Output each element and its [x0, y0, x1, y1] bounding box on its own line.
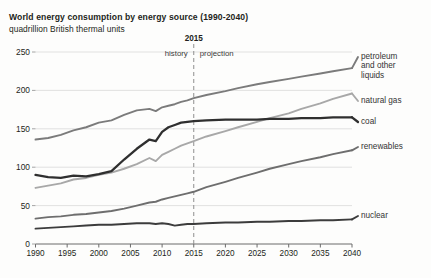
x-axis-tick-label: 2010	[153, 249, 171, 258]
y-axis-tick-label: 50	[4, 201, 30, 211]
series-line-coal	[36, 117, 353, 178]
x-axis-tick-label: 2005	[121, 249, 139, 258]
series-label-petroleum-and-other-liquids: petroleumand otherliquids	[361, 52, 397, 80]
x-axis-tick-label: 2020	[216, 249, 234, 258]
y-axis-tick-label: 150	[4, 124, 30, 134]
projection-label: projection	[200, 49, 234, 58]
plot-canvas	[0, 0, 431, 278]
x-axis-tick-label: 2030	[280, 249, 298, 258]
x-axis-tick-label: 1995	[58, 249, 76, 258]
leader-line-coal	[352, 117, 358, 122]
y-axis-tick-label: 250	[4, 47, 30, 57]
leader-line-petroleum-and-other-liquids	[352, 57, 358, 68]
leader-line-renewables	[352, 147, 358, 150]
y-axis-tick-label: 200	[4, 85, 30, 95]
y-axis-tick-label: 0	[4, 239, 30, 249]
projection-divider-year: 2015	[185, 34, 203, 43]
x-axis-tick-label: 2025	[248, 249, 266, 258]
x-axis-tick-label: 2040	[343, 249, 361, 258]
series-label-nuclear: nuclear	[361, 211, 388, 220]
series-label-coal: coal	[361, 117, 376, 126]
leader-line-natural-gas	[352, 93, 358, 101]
series-label-renewables: renewables	[361, 142, 403, 151]
history-label: history	[165, 49, 188, 58]
y-axis-tick-label: 100	[4, 162, 30, 172]
leader-line-nuclear	[352, 216, 358, 219]
series-label-natural-gas: natural gas	[361, 96, 402, 105]
x-axis-tick-label: 2000	[90, 249, 108, 258]
x-axis-tick-label: 2035	[311, 249, 329, 258]
x-axis-tick-label: 1990	[26, 249, 44, 258]
x-axis-tick-label: 2015	[185, 249, 203, 258]
chart-figure: World energy consumption by energy sourc…	[0, 0, 431, 278]
